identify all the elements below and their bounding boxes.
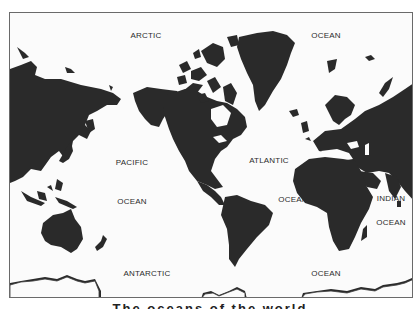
label-pacific: PACIFIC [116,158,148,167]
label-antarctic-ocean: OCEAN [311,269,340,278]
label-indian: INDIAN [377,194,405,203]
world-map: ARCTIC OCEAN PACIFIC OCEAN ATLANTIC OCEA… [9,12,413,298]
label-pacific-ocean: OCEAN [117,197,146,206]
label-antarctic: ANTARCTIC [124,269,171,278]
map-caption: The oceans of the world [0,301,420,309]
label-arctic: ARCTIC [131,31,162,40]
label-atlantic-ocean: OCEAN [278,195,307,204]
label-atlantic: ATLANTIC [249,156,289,165]
label-arctic-ocean: OCEAN [311,31,340,40]
antarctic-outline-svg [10,13,413,298]
label-indian-ocean: OCEAN [376,218,405,227]
